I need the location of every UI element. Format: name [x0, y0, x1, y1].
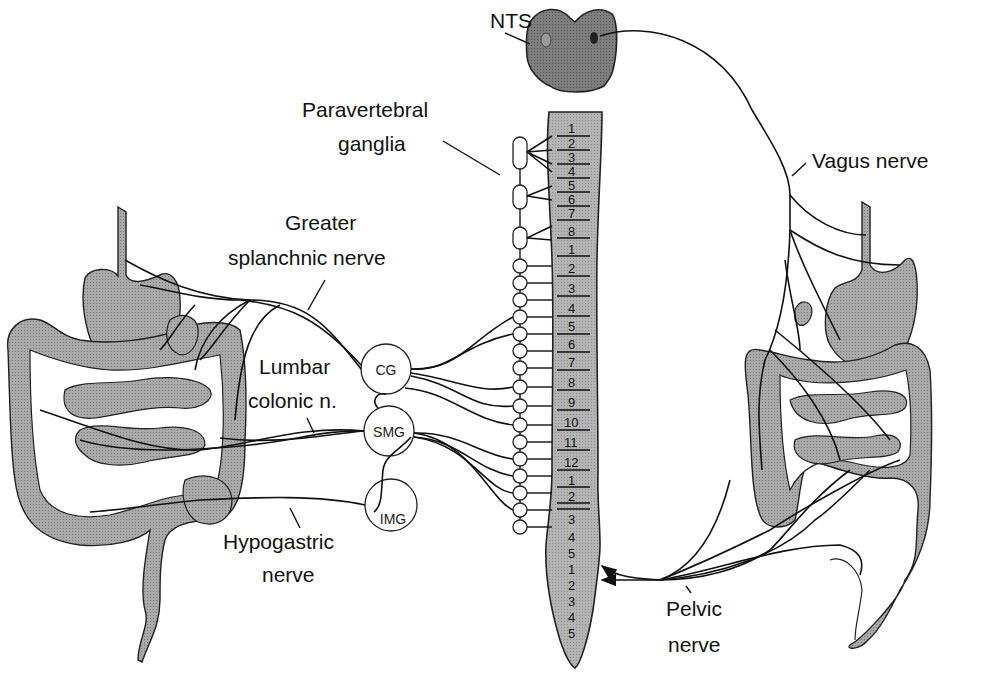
paravertebral-ganglion-middle: [513, 185, 527, 209]
splanchnic-connections: [405, 317, 513, 510]
segment-t1: 1: [568, 242, 575, 257]
segment-t12: 12: [564, 455, 578, 470]
segment-c8: 8: [568, 224, 575, 239]
nts-left-nucleus: [541, 33, 551, 47]
greater-splanchnic-label-line2: splanchnic nerve: [228, 246, 386, 269]
segment-t11: 11: [564, 435, 578, 450]
brainstem: [526, 9, 616, 92]
vagus-label: Vagus nerve: [812, 149, 928, 172]
hypogastric-label-line2: nerve: [262, 563, 315, 586]
duodenum-right: [795, 302, 812, 325]
nts-label: NTS: [490, 9, 532, 32]
paravertebral-ganglion-inferior: [513, 227, 527, 249]
pelvic-label-line1: Pelvic: [666, 597, 722, 620]
segment-t5: 5: [568, 319, 575, 334]
paravertebral-ganglia-beads: [513, 259, 552, 534]
segment-c6: 6: [568, 192, 575, 207]
paravertebral-label-line1: Paravertebral: [302, 98, 428, 121]
img-label: IMG: [380, 511, 406, 527]
right-gut: [745, 202, 931, 648]
segment-s3: 3: [568, 594, 575, 609]
lumbar-colonic-label-line2: colonic n.: [248, 389, 337, 412]
nts-right-nucleus: [590, 32, 598, 44]
segment-c2: 2: [568, 136, 575, 151]
segment-t7: 7: [568, 355, 575, 370]
enteric-autonomic-diagram: 1 2 3 4 5 6 7 8 1 2 3 4 5: [0, 0, 986, 685]
segment-t8: 8: [568, 375, 575, 390]
segment-l3: 3: [568, 512, 575, 527]
prevertebral-ganglia: CG SMG IMG: [361, 344, 417, 531]
segment-s2: 2: [568, 578, 575, 593]
pelvic-label-line2: nerve: [668, 633, 721, 656]
hypogastric-label-line1: Hypogastric: [223, 530, 334, 553]
segment-c4: 4: [568, 164, 575, 179]
segment-c5: 5: [568, 178, 575, 193]
segment-t6: 6: [568, 337, 575, 352]
segment-l2: 2: [568, 489, 575, 504]
nts-region: [526, 9, 616, 92]
segment-l4: 4: [568, 530, 575, 545]
lumbar-colonic-label-line1: Lumbar: [259, 355, 330, 378]
segment-c3: 3: [568, 150, 575, 165]
segment-t4: 4: [568, 301, 575, 316]
paravertebral-label-line2: ganglia: [338, 132, 406, 155]
paravertebral-ganglion-superior: [513, 137, 527, 169]
segment-s4: 4: [568, 610, 575, 625]
segment-l1: 1: [568, 473, 575, 488]
greater-splanchnic-label-line1: Greater: [285, 211, 356, 234]
smg-label: SMG: [373, 424, 405, 440]
segment-t9: 9: [568, 395, 575, 410]
segment-c1: 1: [568, 121, 575, 136]
paravertebral-chain: [513, 136, 552, 534]
segment-t3: 3: [568, 281, 575, 296]
segment-l5: 5: [568, 546, 575, 561]
sacral-segments: 1 2 3 4 5: [568, 562, 575, 641]
segment-s1: 1: [568, 562, 575, 577]
segment-c7: 7: [568, 206, 575, 221]
segment-t10: 10: [564, 415, 578, 430]
left-gut: [8, 207, 246, 662]
segment-s5: 5: [568, 626, 575, 641]
cg-label: CG: [376, 362, 397, 378]
segment-t2: 2: [568, 261, 575, 276]
